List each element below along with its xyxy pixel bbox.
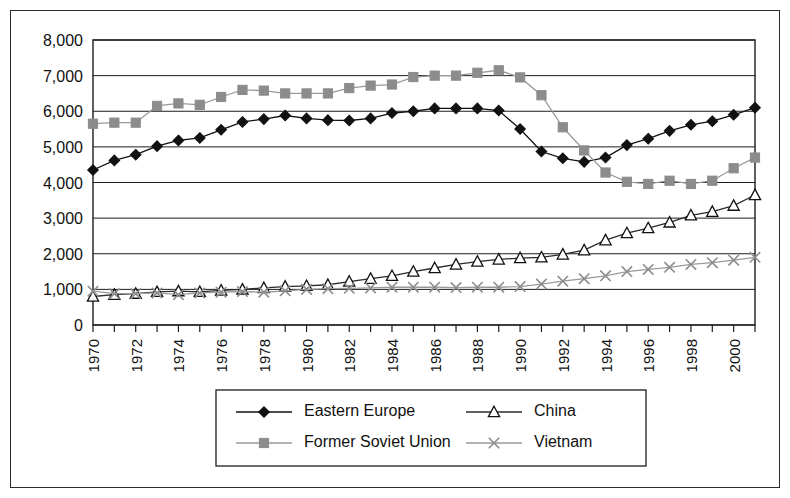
data-point-diamond [664, 126, 674, 136]
y-tick-label: 5,000 [43, 139, 83, 156]
legend-box [216, 390, 646, 466]
x-tick-label: 1980 [299, 339, 316, 372]
data-series-group [87, 66, 760, 301]
data-point-diamond [579, 157, 589, 167]
y-tick-label: 0 [74, 317, 83, 334]
data-point-diamond [195, 133, 205, 143]
data-point-square [665, 176, 674, 185]
data-point-diamond [301, 113, 311, 123]
x-axis-tick-marks [93, 325, 755, 332]
x-tick-label: 1998 [683, 339, 700, 372]
data-point-square [558, 123, 567, 132]
data-point-square [302, 89, 311, 98]
legend-label: Vietnam [534, 433, 592, 450]
x-tick-label: 1994 [598, 339, 615, 372]
data-point-square [494, 66, 503, 75]
data-point-triangle [579, 244, 590, 254]
data-point-square [729, 164, 738, 173]
data-point-square [451, 71, 460, 80]
x-tick-label: 1996 [640, 339, 657, 372]
data-point-square [323, 89, 332, 98]
data-point-square [537, 91, 546, 100]
data-point-diamond [472, 103, 482, 113]
data-point-diamond [707, 116, 717, 126]
y-tick-label: 7,000 [43, 68, 83, 85]
data-point-triangle [728, 200, 739, 210]
y-tick-label: 3,000 [43, 210, 83, 227]
x-tick-label: 1972 [128, 339, 145, 372]
data-point-square [580, 146, 589, 155]
series-eastern-europe [88, 102, 760, 175]
x-tick-label: 1974 [170, 339, 187, 372]
data-point-square [152, 101, 161, 110]
x-tick-label: 1970 [85, 339, 102, 372]
data-point-diamond [88, 165, 98, 175]
x-axis-tick-labels: 1970197219741976197819801982198419861988… [85, 339, 743, 372]
data-point-square [430, 71, 439, 80]
data-point-diamond [323, 115, 333, 125]
data-point-diamond [131, 150, 141, 160]
x-tick-label: 1990 [512, 339, 529, 372]
data-point-diamond [216, 125, 226, 135]
data-point-diamond [365, 113, 375, 123]
data-point-square [238, 85, 247, 94]
data-point-square [345, 83, 354, 92]
data-point-square [110, 118, 119, 127]
data-point-diamond [237, 117, 247, 127]
data-point-diamond [173, 135, 183, 145]
series-china [87, 189, 760, 301]
data-point-square [708, 176, 717, 185]
x-tick-label: 1988 [469, 339, 486, 372]
data-point-diamond [344, 115, 354, 125]
series-line [93, 108, 755, 170]
data-point-diamond [622, 140, 632, 150]
data-point-diamond [152, 141, 162, 151]
x-tick-label: 1984 [384, 339, 401, 372]
y-tick-label: 1,000 [43, 281, 83, 298]
data-point-square [644, 179, 653, 188]
data-point-diamond [259, 114, 269, 124]
data-point-diamond [643, 133, 653, 143]
data-point-square [473, 68, 482, 77]
data-point-square [88, 119, 97, 128]
data-point-square [195, 100, 204, 109]
data-point-square [686, 179, 695, 188]
data-point-square [750, 153, 759, 162]
data-point-square [281, 89, 290, 98]
data-point-diamond [280, 110, 290, 120]
data-point-square [259, 86, 268, 95]
x-tick-label: 1992 [555, 339, 572, 372]
data-point-square [622, 177, 631, 186]
y-tick-label: 6,000 [43, 103, 83, 120]
x-tick-label: 1982 [341, 339, 358, 372]
data-point-square [387, 80, 396, 89]
data-point-diamond [408, 106, 418, 116]
data-point-square [601, 168, 610, 177]
data-point-square [217, 92, 226, 101]
series-line [93, 195, 755, 297]
data-point-diamond [600, 152, 610, 162]
series-line [93, 70, 755, 184]
x-tick-label: 2000 [726, 339, 743, 372]
data-point-square [515, 73, 524, 82]
data-point-diamond [451, 103, 461, 113]
y-tick-label: 4,000 [43, 175, 83, 192]
data-point-diamond [429, 103, 439, 113]
data-point-square [259, 438, 268, 447]
data-point-triangle [749, 189, 760, 199]
x-tick-label: 1976 [213, 339, 230, 372]
series-vietnam [88, 252, 760, 300]
data-point-diamond [686, 120, 696, 130]
data-point-square [366, 81, 375, 90]
line-chart: 01,0002,0003,0004,0005,0006,0007,0008,00… [0, 0, 790, 498]
series-former-soviet-union [88, 66, 759, 189]
chart-figure: 01,0002,0003,0004,0005,0006,0007,0008,00… [0, 0, 790, 498]
y-tick-label: 8,000 [43, 32, 83, 49]
data-point-square [409, 72, 418, 81]
y-axis-tick-labels: 01,0002,0003,0004,0005,0006,0007,0008,00… [43, 32, 83, 334]
data-point-diamond [109, 155, 119, 165]
y-tick-label: 2,000 [43, 246, 83, 263]
data-point-square [174, 99, 183, 108]
x-tick-label: 1986 [427, 339, 444, 372]
data-point-diamond [387, 108, 397, 118]
